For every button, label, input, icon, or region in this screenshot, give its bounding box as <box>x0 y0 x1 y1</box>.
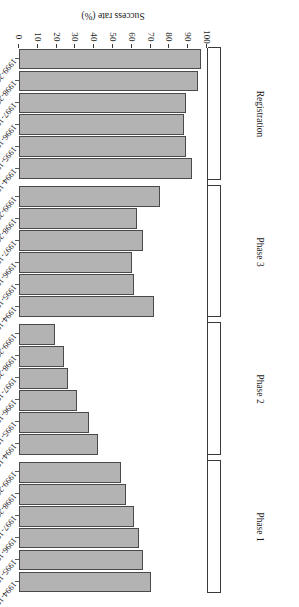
bar <box>19 572 151 593</box>
bar-row <box>19 186 207 207</box>
value-tick-label: 80 <box>164 20 174 54</box>
group-label: Phase 2 <box>253 350 267 428</box>
category-label: 1994-1996 <box>0 580 18 607</box>
bar-row <box>19 346 207 367</box>
value-axis-line <box>207 48 208 593</box>
group-spine-cap <box>208 317 221 318</box>
value-tick-label: 70 <box>146 20 156 54</box>
category-tick <box>15 240 19 241</box>
bar <box>19 136 186 157</box>
category-tick <box>15 306 19 307</box>
bar-row <box>19 324 207 345</box>
category-tick <box>15 58 19 59</box>
value-tick-label: 20 <box>52 20 62 54</box>
category-tick <box>15 80 19 81</box>
group-spine-cap <box>208 185 221 186</box>
group-label: Phase 3 <box>253 213 267 291</box>
category-tick <box>15 218 19 219</box>
value-tick-label: 10 <box>33 20 43 54</box>
bar <box>19 230 143 251</box>
bar <box>19 484 126 505</box>
bar <box>19 324 55 345</box>
bar-row <box>19 368 207 389</box>
bar <box>19 368 68 389</box>
category-tick <box>15 284 19 285</box>
bar-row <box>19 252 207 273</box>
category-tick <box>15 124 19 125</box>
bar <box>19 550 143 571</box>
category-tick <box>15 196 19 197</box>
bar <box>19 71 198 92</box>
group-spine <box>220 461 221 593</box>
bar <box>19 93 186 114</box>
bar-row <box>19 208 207 229</box>
bar-row <box>19 71 207 92</box>
value-tick-label: 0 <box>14 20 24 54</box>
bar <box>19 186 160 207</box>
group-spine <box>220 186 221 318</box>
category-tick <box>15 537 19 538</box>
group-spine-cap <box>208 323 221 324</box>
category-tick <box>15 168 19 169</box>
category-tick <box>15 102 19 103</box>
bar-row <box>19 230 207 251</box>
value-tick-label: 90 <box>183 20 193 54</box>
bar <box>19 462 121 483</box>
bar-row <box>19 136 207 157</box>
value-tick-label: 40 <box>89 20 99 54</box>
bar-row <box>19 572 207 593</box>
bar <box>19 208 137 229</box>
category-tick <box>15 146 19 147</box>
bar-row <box>19 114 207 135</box>
group-label: Phase 1 <box>253 488 267 566</box>
bar <box>19 114 184 135</box>
bar <box>19 528 139 549</box>
bar-row <box>19 550 207 571</box>
bar-row <box>19 462 207 483</box>
bar-row <box>19 390 207 411</box>
group-spine <box>220 48 221 180</box>
bar <box>19 506 134 527</box>
category-tick <box>15 581 19 582</box>
bar <box>19 434 98 455</box>
category-tick <box>15 262 19 263</box>
group-spine-cap <box>208 460 221 461</box>
bar-row <box>19 296 207 317</box>
value-tick-label: 50 <box>108 20 118 54</box>
category-tick <box>15 559 19 560</box>
bar-row <box>19 93 207 114</box>
bar <box>19 252 132 273</box>
chart-figure: Phase 1Phase 2Phase 3Registration 1994-1… <box>0 0 299 607</box>
bar <box>19 274 134 295</box>
group-label: Registration <box>253 75 267 153</box>
value-tick-label: 60 <box>127 20 137 54</box>
bar-row <box>19 506 207 527</box>
bar-row <box>19 528 207 549</box>
bar <box>19 296 154 317</box>
group-spine <box>220 324 221 456</box>
bar-row <box>19 484 207 505</box>
bar <box>19 158 192 179</box>
bar-row <box>19 434 207 455</box>
axis-title: Success rate (%) <box>19 11 207 21</box>
value-tick-label: 30 <box>70 20 80 54</box>
value-tick-label: 100 <box>202 20 212 54</box>
bar-row <box>19 158 207 179</box>
bar-row <box>19 274 207 295</box>
bar <box>19 346 64 367</box>
plot-area <box>19 48 207 593</box>
bar <box>19 412 89 433</box>
bar <box>19 390 77 411</box>
group-spine-cap <box>208 592 221 593</box>
group-spine-cap <box>208 454 221 455</box>
bar-row <box>19 412 207 433</box>
group-spine-cap <box>208 179 221 180</box>
